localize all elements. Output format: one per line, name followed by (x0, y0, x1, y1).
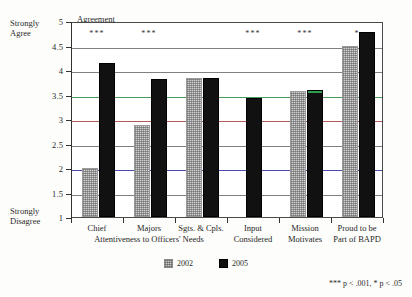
gridline (72, 97, 382, 98)
x-axis-label: Majors (137, 223, 161, 234)
y-axis-label: 2.5 (23, 141, 63, 149)
x-axis-label: Sgts. & Cpls. (178, 223, 223, 234)
gridline (72, 195, 382, 196)
x-axis-label: Proud to bePart of BAPD (333, 223, 381, 244)
y-axis-label: 3.5 (23, 92, 63, 100)
legend-item-2002: 2002 (164, 259, 193, 268)
x-axis-label-line2: Part of BAPD (333, 234, 381, 245)
x-axis-label-line1: Mission (288, 223, 322, 234)
significance-marker: *** (245, 29, 261, 38)
x-axis-group-label: Attentiveness to Officers' Needs (94, 234, 204, 245)
gridline (72, 121, 382, 122)
x-axis-label: Chief (88, 223, 107, 234)
legend-item-2005: 2005 (219, 259, 248, 268)
significance-footnote: *** p < .001, * p < .05 (329, 279, 402, 288)
significance-marker: *** (297, 29, 313, 38)
x-axis-label: InputConsidered (234, 223, 273, 244)
x-axis-label-line1: Majors (137, 223, 161, 234)
bar-2005-mission-motivates (307, 90, 323, 217)
bar-2005-sgts-cpls (203, 78, 219, 217)
bar-2002-sgts-cpls (186, 78, 202, 217)
x-axis-tick (383, 218, 384, 223)
y-axis-label: 2 (23, 165, 63, 173)
y-axis-tick (66, 47, 71, 48)
y-axis-top-caption-line2: Agree (10, 28, 58, 38)
legend-label-2002: 2002 (177, 259, 193, 268)
bar-2002-mission-motivates (290, 91, 306, 217)
gridline (72, 48, 382, 49)
bar-2002-majors (134, 125, 150, 217)
y-axis-tick (66, 22, 71, 23)
x-axis-label-line1: Chief (88, 223, 107, 234)
y-axis-label: 5 (23, 18, 63, 26)
y-axis-tick (66, 71, 71, 72)
gridline (72, 72, 382, 73)
bar-2005-input-considered (246, 98, 262, 217)
bar-2002-proud-to-be-part-of-bapd (342, 46, 358, 218)
y-axis-label: 4 (23, 67, 63, 75)
x-axis-tick (331, 218, 332, 223)
y-axis-tick (66, 194, 71, 195)
legend-label-2005: 2005 (232, 259, 248, 268)
x-axis-tick (227, 218, 228, 223)
legend-swatch-2002 (164, 259, 173, 268)
x-axis-label-line2: Motivates (288, 234, 322, 245)
x-axis-tick (71, 218, 72, 223)
y-axis-tick (66, 96, 71, 97)
bar-2002-chief (82, 168, 98, 217)
x-axis-label-line1: Proud to be (333, 223, 381, 234)
gridline (72, 146, 382, 147)
bar-2005-proud-to-be-part-of-bapd (359, 32, 375, 217)
bar-top-highlight (308, 91, 322, 93)
y-axis-tick (66, 120, 71, 121)
y-axis-label: 1.5 (23, 190, 63, 198)
significance-marker: *** (89, 29, 105, 38)
y-axis-label: 4.5 (23, 43, 63, 51)
x-axis-label-line2: Considered (234, 234, 273, 245)
y-axis-line (71, 22, 72, 218)
y-axis-label: 1 (23, 214, 63, 222)
x-axis-label-line1: Sgts. & Cpls. (178, 223, 223, 234)
y-axis-tick (66, 145, 71, 146)
x-axis-label-line1: Input (234, 223, 273, 234)
legend-swatch-2005 (219, 259, 228, 268)
gridline (72, 170, 382, 171)
chart-legend: 2002 2005 (0, 259, 412, 268)
y-axis-tick (66, 169, 71, 170)
bar-chart: Strongly Agree Strongly Disagree Agreeme… (0, 0, 412, 297)
x-axis-tick (279, 218, 280, 223)
x-axis-label: MissionMotivates (288, 223, 322, 244)
bar-2005-chief (99, 63, 115, 217)
x-axis-tick (123, 218, 124, 223)
y-axis-label: 3 (23, 116, 63, 124)
significance-marker: * (354, 29, 359, 38)
x-axis-tick (175, 218, 176, 223)
plot-area (71, 22, 383, 218)
bar-2005-majors (151, 79, 167, 217)
significance-marker: *** (141, 29, 157, 38)
